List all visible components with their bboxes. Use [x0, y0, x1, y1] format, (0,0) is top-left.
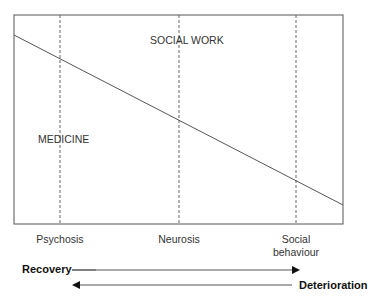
arrow-left-icon	[72, 281, 80, 289]
arrow-right-icon	[292, 266, 300, 274]
category-neurosis: Neurosis	[149, 233, 209, 246]
region-label-medicine: MEDICINE	[38, 133, 89, 145]
category-psychosis: Psychosis	[30, 233, 90, 246]
recovery-label: Recovery	[22, 263, 72, 275]
category-social-behaviour-line2: behaviour	[266, 246, 326, 259]
category-social-behaviour: Social behaviour	[266, 233, 326, 259]
category-social-behaviour-line1: Social	[266, 233, 326, 246]
region-label-social-work: SOCIAL WORK	[150, 34, 224, 46]
deterioration-label: Deterioration	[296, 279, 367, 291]
